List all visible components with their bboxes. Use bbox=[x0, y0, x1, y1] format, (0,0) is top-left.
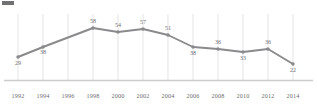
x-tick-label-2004: 2004 bbox=[162, 92, 175, 99]
point-label: 29 bbox=[15, 60, 21, 66]
point-label: 38 bbox=[190, 50, 196, 56]
x-tick-label-2008: 2008 bbox=[212, 92, 225, 99]
x-tick-label-1998: 1998 bbox=[87, 92, 100, 99]
x-tick-label-2006: 2006 bbox=[187, 92, 200, 99]
x-tick-label-1996: 1996 bbox=[62, 92, 75, 99]
x-tick-label-2010: 2010 bbox=[237, 92, 250, 99]
point-label: 54 bbox=[115, 22, 121, 28]
point-label: 57 bbox=[140, 19, 146, 25]
point-label: 22 bbox=[290, 67, 296, 73]
line-chart: 29 38 58 54 57 51 38 36 33 36 22 1992 19… bbox=[0, 0, 317, 105]
x-tick-label-1992: 1992 bbox=[12, 92, 25, 99]
point-label: 51 bbox=[165, 25, 171, 31]
x-tick-label-2000: 2000 bbox=[112, 92, 125, 99]
x-tick-label-2002: 2002 bbox=[137, 92, 150, 99]
gridlines bbox=[18, 14, 293, 80]
point-label: 36 bbox=[265, 39, 271, 45]
series-line bbox=[18, 28, 293, 64]
point-label: 38 bbox=[40, 49, 46, 55]
x-tick-label-2014: 2014 bbox=[287, 92, 300, 99]
point-label: 58 bbox=[90, 18, 96, 24]
x-tick-label-2012: 2012 bbox=[262, 92, 275, 99]
plot-area bbox=[0, 0, 317, 105]
point-label: 36 bbox=[215, 39, 221, 45]
x-tick-label-1994: 1994 bbox=[37, 92, 50, 99]
point-label: 33 bbox=[240, 55, 246, 61]
